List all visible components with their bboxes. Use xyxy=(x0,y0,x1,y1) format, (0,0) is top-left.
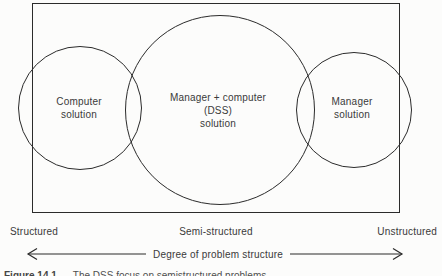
manager-solution-label-line2: solution xyxy=(332,108,373,121)
figure-caption: Figure 14.1The DSS focus on semistructur… xyxy=(4,270,442,276)
manager-solution-label: Manager solution xyxy=(332,95,373,121)
semi-structured-label: Semi-structured xyxy=(179,226,253,237)
computer-solution-label-line1: Computer xyxy=(56,95,102,108)
structure-axis-labels: Structured Semi-structured Unstructured xyxy=(0,226,442,239)
manager-solution-label-line1: Manager xyxy=(332,95,373,108)
structured-label: Structured xyxy=(10,226,58,237)
dss-solution-label-line1: Manager + computer xyxy=(170,91,266,104)
dss-solution-label-line3: solution xyxy=(170,117,266,130)
unstructured-label: Unstructured xyxy=(377,226,437,237)
dss-problem-structure-diagram: Computer solution Manager + computer (DS… xyxy=(0,0,442,276)
degree-of-problem-structure-arrow: Degree of problem structure xyxy=(26,246,404,262)
computer-solution-label-line2: solution xyxy=(56,108,102,121)
dss-solution-label: Manager + computer (DSS) solution xyxy=(170,91,266,130)
computer-solution-label: Computer solution xyxy=(56,95,102,121)
figure-caption-text: The DSS focus on semistructured problems xyxy=(73,270,266,276)
figure-number: Figure 14.1 xyxy=(4,270,57,276)
degree-arrow-label: Degree of problem structure xyxy=(153,249,283,260)
dss-solution-label-line2: (DSS) xyxy=(170,104,266,117)
